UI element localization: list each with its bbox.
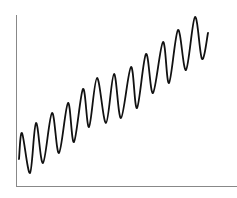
data-line <box>19 17 208 173</box>
line-chart <box>0 0 237 198</box>
